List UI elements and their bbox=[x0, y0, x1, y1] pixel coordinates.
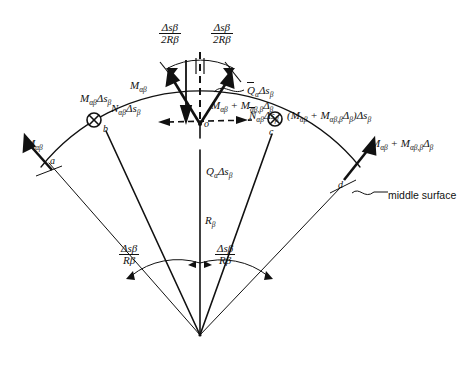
angle-label-left: Δsβ2Rβ bbox=[159, 22, 181, 45]
shell-element-diagram bbox=[0, 0, 463, 369]
middle-surface-leader bbox=[352, 191, 374, 195]
normal-right-arrowhead bbox=[236, 116, 248, 124]
bottom-mid-arrow-left bbox=[188, 261, 196, 268]
point-label-o: o bbox=[204, 119, 209, 129]
bottom-left-arrowhead bbox=[126, 271, 135, 280]
bottom-angle-label-right: ΔsβRβ bbox=[215, 243, 235, 266]
spoke-b bbox=[106, 131, 200, 335]
moment-d-label: Mαβ + Mαβ,βΔβ bbox=[371, 138, 433, 152]
bottom-right-den: Rβ bbox=[215, 254, 235, 266]
moment-a-label: Mαβ bbox=[26, 138, 43, 152]
middle-surface-label: middle surface bbox=[388, 186, 456, 202]
bottom-right-num: Δsβ bbox=[215, 243, 235, 254]
d-tick bbox=[330, 180, 356, 193]
radius-label: Rβ bbox=[205, 215, 215, 229]
angle-right-den: 2Rβ bbox=[211, 33, 233, 45]
normal-left-arrowhead bbox=[158, 118, 170, 126]
angle-label-right: Δsβ2Rβ bbox=[211, 22, 233, 45]
angle-right-num: Δsβ bbox=[211, 22, 233, 33]
figure-caption bbox=[0, 360, 463, 369]
angle-left-num: Δsβ bbox=[159, 22, 181, 33]
bottom-mid-arrow-right bbox=[204, 261, 212, 268]
point-label-b: b bbox=[103, 124, 108, 134]
moment-b-label: MαβΔsβ bbox=[80, 93, 111, 107]
bottom-left-den: Rβ bbox=[119, 254, 139, 266]
angle-left-den: 2Rβ bbox=[159, 33, 181, 45]
circled-x-b bbox=[87, 113, 101, 127]
bottom-right-arrowhead bbox=[264, 271, 273, 280]
moment-c-label: (Mαβ + Mαβ,βΔβ)Δsβ bbox=[287, 110, 371, 124]
shear-center-label: QαΔsβ bbox=[206, 166, 232, 180]
normal-bar-label: NαβΔsβ bbox=[249, 110, 278, 124]
apex-point bbox=[198, 333, 201, 336]
point-label-a: a bbox=[50, 156, 55, 166]
bottom-left-num: Δsβ bbox=[119, 243, 139, 254]
moment-label-o-left: Mαβ bbox=[130, 80, 147, 94]
point-label-d: d bbox=[338, 180, 343, 190]
point-label-c: c bbox=[269, 127, 273, 137]
bottom-angle-label-left: ΔsβRβ bbox=[119, 243, 139, 266]
shear-bar-label: QαΔsβ bbox=[247, 85, 273, 99]
moment-vector-right-head bbox=[222, 72, 233, 87]
origin-point bbox=[198, 122, 202, 126]
normal-left-label: NαβΔsβ bbox=[111, 103, 140, 117]
